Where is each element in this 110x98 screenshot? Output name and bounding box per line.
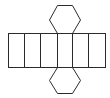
- side-face-5: [73, 34, 89, 68]
- bottom-hexagon-face: [50, 68, 81, 94]
- net-svg: [0, 0, 110, 98]
- side-face-6: [89, 34, 106, 68]
- side-face-3: [41, 34, 58, 68]
- top-hexagon-face: [50, 6, 81, 34]
- side-face-1: [9, 34, 25, 68]
- hexagonal-prism-net-diagram: [0, 0, 110, 98]
- side-face-2: [25, 34, 41, 68]
- side-face-4: [58, 34, 73, 68]
